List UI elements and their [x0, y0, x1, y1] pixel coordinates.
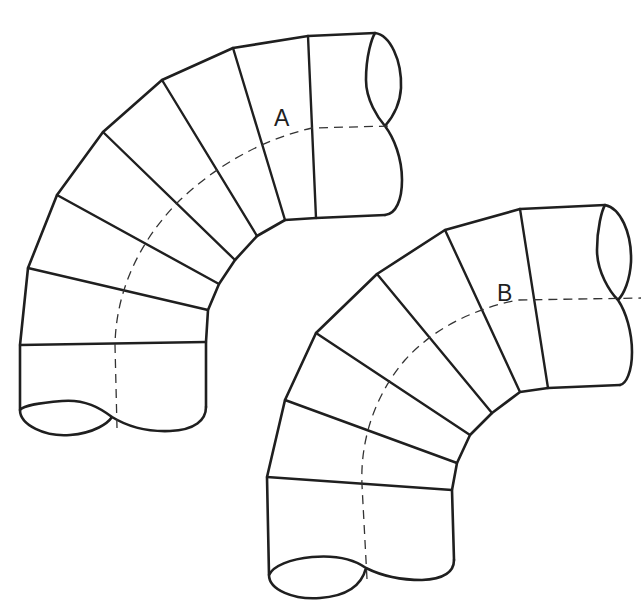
elbow-b-label: B	[497, 280, 512, 306]
elbow-b-top-pipe-end	[597, 205, 632, 385]
elbow-b: B	[267, 205, 641, 598]
elbow-a-centerline	[115, 126, 390, 428]
elbow-a-seam	[20, 342, 206, 345]
elbow-a: A	[20, 33, 402, 435]
elbow-b-seam	[520, 209, 548, 388]
elbow-a-top-pipe-end	[366, 33, 402, 215]
elbow-a-seam	[233, 48, 285, 220]
elbow-b-bottom-pipe-end	[269, 556, 454, 598]
elbow-b-inner-edge	[452, 385, 620, 560]
elbow-a-seam	[162, 80, 257, 236]
elbow-a-seam	[57, 195, 219, 284]
elbow-b-seam	[445, 230, 520, 392]
elbow-b-centerline	[362, 298, 641, 579]
elbow-a-seam	[28, 268, 208, 310]
elbow-a-label: A	[274, 105, 290, 131]
elbow-diagram: A B	[0, 0, 641, 604]
elbow-a-seam	[308, 36, 316, 218]
elbow-a-seam	[103, 132, 235, 260]
elbow-b-seam	[267, 477, 452, 490]
elbow-b-outer-edge	[267, 205, 605, 575]
elbow-a-bottom-pipe-end	[20, 401, 206, 436]
elbow-a-outer-edge	[20, 33, 375, 410]
